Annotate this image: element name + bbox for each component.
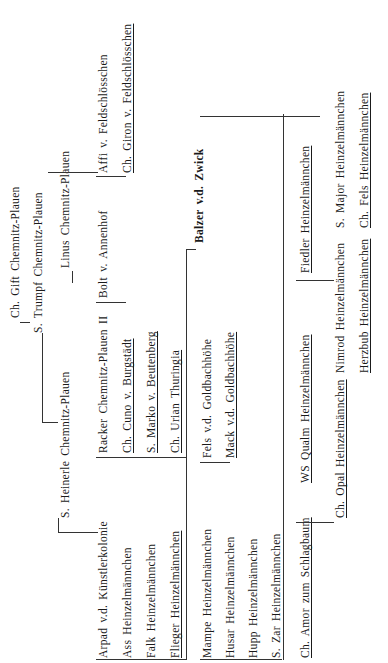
dog-ch-gift: Ch. Gift Chemnitz-Plauen <box>8 186 22 318</box>
dog-opal: Ch. Opal Heinzelmännchen <box>333 379 347 518</box>
dog-urian: Ch. Urian Thuringia <box>168 350 182 453</box>
dog-husar: Husar Heinzelmännchen <box>223 536 237 658</box>
dog-ass: Ass Heinzelmännchen <box>120 547 134 658</box>
connector <box>42 333 43 423</box>
dog-hupp: Hupp Heinzelmännchen <box>246 539 260 658</box>
dog-giron: Ch. Giron v. Feldschlösschen <box>120 24 134 173</box>
connector <box>96 176 126 177</box>
connector <box>200 659 282 660</box>
dog-qualm: WS Qualm Heinzelmännchen <box>298 334 312 483</box>
dog-balzer-main: Balzer v.d. Zwick <box>192 148 206 243</box>
connector <box>186 250 187 660</box>
dog-mack: Mack v.d. Goldbachhöhe <box>223 332 237 458</box>
dog-amor: Ch. Amor zum Schlagbaum <box>298 517 312 658</box>
connector <box>186 249 196 250</box>
dog-zar: S. Zar Heinzelmännchen <box>269 533 283 658</box>
pedigree-chart: Ch. Gift Chemnitz-Plauen S. Trumpf Chemn… <box>0 0 388 663</box>
dog-falk: Falk Heinzelmännchen <box>144 544 158 658</box>
connector <box>96 302 126 303</box>
dog-nimrod: Nimrod Heinzelmännchen <box>333 243 347 373</box>
connector <box>42 422 58 423</box>
connector <box>58 518 59 533</box>
connector <box>58 532 98 533</box>
connector <box>48 172 98 173</box>
dog-bolt: Bolt v. Annenhof <box>96 210 110 298</box>
dog-fiedler: Fiedler Heinzelmännchen <box>298 146 312 273</box>
dog-major: S. Major Heinzelmännchen <box>333 91 347 228</box>
connector <box>200 462 230 463</box>
connector <box>283 114 284 660</box>
connector <box>72 271 73 283</box>
dog-s-heinerle: S. Heinerle Chemnitz-Plauen <box>58 371 72 518</box>
dog-flieger: Flieger Heinzelmännchen <box>168 531 182 658</box>
connector <box>96 457 186 458</box>
connector <box>296 280 334 281</box>
connector <box>96 659 186 660</box>
dog-affi: Affi v. Feldschlösschen <box>96 54 110 173</box>
dog-racker: Racker Chemnitz-Plauen II <box>96 316 110 453</box>
dog-herzbub: Herzbub Heinzelmännchen <box>357 239 371 373</box>
dog-mampe: Mampe Heinzelmännchen <box>200 529 214 658</box>
dog-arpad: Arpad v.d. Künstlerkolonie <box>96 521 110 658</box>
dog-cuno: Ch. Cuno v. Burgstädt <box>120 338 134 453</box>
dog-marko: S. Marko v. Beutenberg <box>144 331 158 453</box>
dog-fels-goldbach: Fels v.d. Goldbachhöhe <box>200 339 214 458</box>
connector <box>200 116 320 117</box>
connector <box>296 522 334 523</box>
connector <box>20 322 30 323</box>
dog-linus: Linus Chemnitz-Plauen <box>58 151 72 268</box>
dog-s-trumpf: S. Trumpf Chemnitz-Plauen <box>31 192 45 333</box>
dog-ch-fels: Ch. Fels Heinzelmännchen <box>357 93 371 228</box>
